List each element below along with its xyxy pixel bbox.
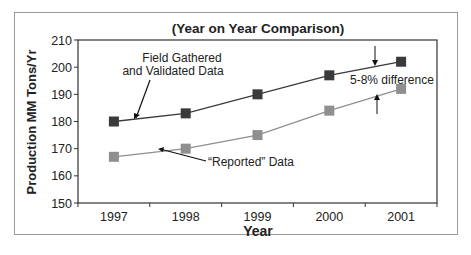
data-point-marker	[253, 89, 263, 99]
x-axis-label: Year	[243, 223, 273, 239]
data-point-marker	[324, 106, 334, 116]
annotation-reported: “Reported” Data	[208, 155, 294, 169]
data-point-marker	[396, 57, 406, 67]
annotation-field-line2: and Validated Data	[122, 64, 224, 78]
data-point-marker	[324, 70, 334, 80]
data-point-marker	[253, 130, 263, 140]
y-tick-label: 170	[51, 142, 72, 156]
annotation-difference: 5-8% difference	[350, 46, 434, 114]
data-point-marker	[181, 108, 191, 118]
arrowhead-down-icon	[372, 60, 378, 66]
annotation-field-line1: Field Gathered	[142, 51, 221, 65]
data-point-marker	[181, 144, 191, 154]
x-tick-label: 1997	[100, 210, 128, 224]
plot-area: 1501601701801902002101997199819992000200…	[51, 34, 437, 225]
x-tick-label: 1999	[244, 210, 272, 224]
y-tick-label: 200	[51, 61, 72, 75]
x-tick-label: 2000	[315, 210, 343, 224]
annotation-difference-text: 5-8% difference	[350, 73, 434, 87]
chart-title: (Year on Year Comparison)	[172, 21, 344, 36]
arrow-field-icon	[136, 80, 150, 118]
y-tick-label: 190	[51, 88, 72, 102]
y-tick-label: 160	[51, 169, 72, 183]
y-tick-label: 210	[51, 34, 72, 48]
y-tick-label: 180	[51, 115, 72, 129]
y-tick-label: 150	[51, 197, 72, 211]
data-point-marker	[109, 117, 119, 127]
y-axis-label: Production MM Tons/Yr	[24, 50, 39, 195]
x-tick-label: 2001	[387, 210, 415, 224]
x-tick-label: 1998	[172, 210, 200, 224]
data-point-marker	[109, 152, 119, 162]
annotation-reported-data: “Reported” Data	[158, 147, 294, 169]
annotation-field-data: Field Gathered and Validated Data	[122, 51, 224, 119]
line-chart: (Year on Year Comparison) 15016017018019…	[0, 0, 471, 255]
